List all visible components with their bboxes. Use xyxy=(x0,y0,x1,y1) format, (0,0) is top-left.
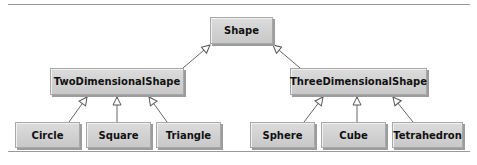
edge-triangle-to-twod xyxy=(149,97,167,122)
edge-twod-to-shape xyxy=(183,45,210,68)
edge-circle-to-twod xyxy=(69,97,87,122)
class-shape: Shape xyxy=(210,17,273,44)
class-tetrahedron: Tetrahedron xyxy=(392,122,463,148)
class-square: Square xyxy=(86,122,151,148)
class-sphere: Sphere xyxy=(250,122,315,148)
edge-tetrahedron-to-threed xyxy=(393,97,413,122)
class-three-dimensional-shape: ThreeDimensionalShape xyxy=(290,68,427,95)
class-triangle: Triangle xyxy=(156,122,221,148)
class-two-dimensional-shape: TwoDimensionalShape xyxy=(50,68,184,95)
edge-sphere-to-threed xyxy=(304,97,323,122)
edge-threed-to-shape xyxy=(273,45,300,68)
class-cube: Cube xyxy=(321,122,386,148)
class-circle: Circle xyxy=(15,122,80,148)
